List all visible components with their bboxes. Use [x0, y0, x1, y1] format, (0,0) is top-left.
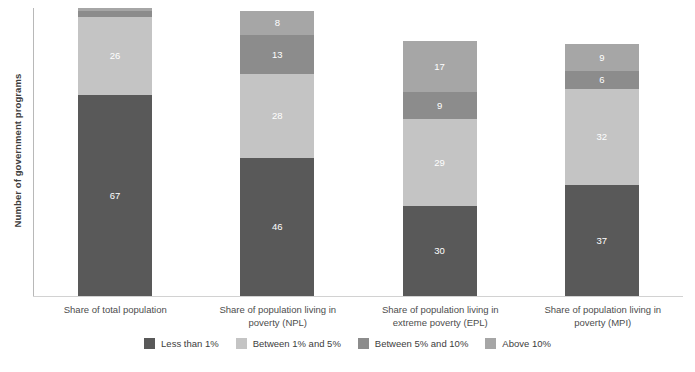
stacked-bar-chart: Number of government programs 2667 81328…: [0, 0, 695, 372]
bar-group-total-population: 2667: [34, 8, 196, 296]
x-axis-label-line: Share of population living in: [205, 303, 352, 316]
bar-segment-labeled[interactable]: 32: [565, 89, 639, 185]
legend-item[interactable]: Less than 1%: [144, 338, 219, 349]
x-axis-label-line: Share of total population: [42, 303, 189, 316]
legend-swatch-icon: [236, 338, 247, 349]
legend-item[interactable]: Above 10%: [485, 338, 551, 349]
stacked-bar[interactable]: 8132846: [240, 11, 314, 296]
x-axis-label-line: Share of population living in: [530, 303, 677, 316]
x-axis-line: [33, 296, 683, 297]
bar-segment-labeled[interactable]: 28: [240, 74, 314, 158]
plot-area: 2667 8132846 1792930 963237: [33, 8, 683, 297]
bars-container: 2667 8132846 1792930 963237: [34, 8, 683, 296]
legend-label: Above 10%: [502, 338, 551, 349]
x-axis-label-line: poverty (MPI): [530, 316, 677, 329]
x-axis-label-poverty-npl: Share of population living in poverty (N…: [197, 303, 360, 329]
x-axis-category-labels: Share of total population Share of popul…: [34, 303, 684, 329]
bar-segment-labeled[interactable]: 9: [403, 92, 477, 119]
bar-segment-labeled[interactable]: 26: [78, 17, 152, 95]
bar-group-poverty-mpi: 963237: [521, 8, 683, 296]
x-axis-label-poverty-mpi: Share of population living in poverty (M…: [522, 303, 685, 329]
y-axis-title-text: Number of government programs: [13, 73, 24, 227]
stacked-bar[interactable]: 1792930: [403, 41, 477, 296]
chart-legend: Less than 1%Between 1% and 5%Between 5% …: [0, 338, 695, 349]
y-axis-title: Number of government programs: [6, 0, 30, 300]
legend-swatch-icon: [485, 338, 496, 349]
bar-segment-labeled[interactable]: 8: [240, 11, 314, 35]
legend-item[interactable]: Between 1% and 5%: [236, 338, 341, 349]
legend-swatch-icon: [358, 338, 369, 349]
legend-swatch-icon: [144, 338, 155, 349]
bar-group-extreme-poverty-epl: 1792930: [359, 8, 521, 296]
stacked-bar[interactable]: 963237: [565, 44, 639, 296]
x-axis-label-extreme-poverty-epl: Share of population living in extreme po…: [359, 303, 522, 329]
x-axis-label-total-population: Share of total population: [34, 303, 197, 329]
bar-segment-labeled[interactable]: 6: [565, 71, 639, 89]
bar-segment-labeled[interactable]: 37: [565, 185, 639, 296]
x-axis-label-line: Share of population living in: [367, 303, 514, 316]
bar-segment-labeled[interactable]: 30: [403, 206, 477, 296]
bar-segment-labeled[interactable]: 9: [565, 44, 639, 71]
stacked-bar[interactable]: 2667: [78, 8, 152, 296]
x-axis-label-line: poverty (NPL): [205, 316, 352, 329]
legend-label: Between 5% and 10%: [375, 338, 468, 349]
legend-label: Less than 1%: [161, 338, 219, 349]
bar-segment-labeled[interactable]: 13: [240, 35, 314, 74]
bar-segment-labeled[interactable]: 46: [240, 158, 314, 296]
legend-item[interactable]: Between 5% and 10%: [358, 338, 468, 349]
bar-segment-labeled[interactable]: 17: [403, 41, 477, 92]
bar-segment-labeled[interactable]: 67: [78, 95, 152, 296]
x-axis-label-line: extreme poverty (EPL): [367, 316, 514, 329]
bar-group-poverty-npl: 8132846: [196, 8, 358, 296]
legend-label: Between 1% and 5%: [253, 338, 341, 349]
bar-segment-labeled[interactable]: 29: [403, 119, 477, 206]
